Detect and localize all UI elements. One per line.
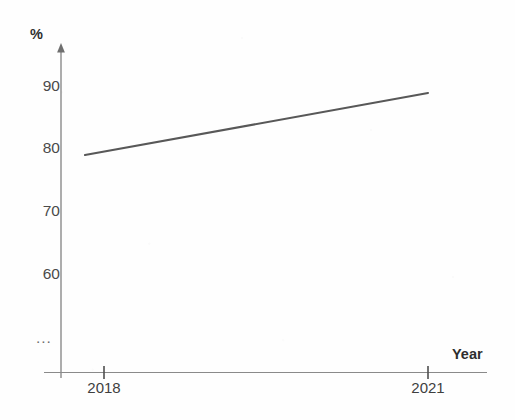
y-tick-label-60: 60 <box>24 266 60 282</box>
data-series-line <box>85 93 428 155</box>
x-axis-title: Year <box>452 347 483 362</box>
y-tick-label-90: 90 <box>24 78 60 94</box>
y-tick-label-70: 70 <box>24 203 60 219</box>
y-axis-title: % <box>30 27 43 42</box>
x-tick-label-2018: 2018 <box>74 380 134 395</box>
x-tick-label-2021: 2021 <box>398 380 458 395</box>
y-axis-break-ellipsis: ... <box>36 330 52 346</box>
trend-line-segment <box>85 93 428 155</box>
chart-plot-area <box>0 0 515 420</box>
y-tick-label-80: 80 <box>24 140 60 156</box>
y-axis-arrowhead <box>57 43 65 53</box>
chart-container: % 90 80 70 60 ... 2018 2021 Year <box>0 0 515 420</box>
x-axis <box>44 366 487 379</box>
